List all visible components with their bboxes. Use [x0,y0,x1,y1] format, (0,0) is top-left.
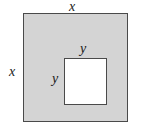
dimension-label-y-left: y [52,72,58,86]
dimension-label-y-top: y [80,42,86,56]
inner-square [64,58,107,105]
dimension-label-x-left: x [9,65,15,79]
dimension-label-x-top: x [69,0,75,14]
geometry-figure: x x y y [0,0,141,136]
